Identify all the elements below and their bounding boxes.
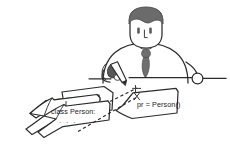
tie-shape xyxy=(142,57,149,77)
person-figure xyxy=(102,7,203,86)
left-eye-icon xyxy=(137,28,140,34)
tie-knot-shape xyxy=(142,49,151,58)
right-paper-code: pr = Person() xyxy=(137,100,180,109)
crosshair-tick-upper xyxy=(133,86,141,93)
left-paper-code-continuation: . . . xyxy=(59,116,77,125)
sketch-svg: class Person: . . . pr = Person() xyxy=(0,0,230,146)
right-eye-icon xyxy=(149,28,152,34)
left-paper-code: class Person: xyxy=(51,107,95,116)
desk-line xyxy=(89,78,226,79)
right-hand-icon xyxy=(192,73,203,84)
left-paper-stack: class Person: . . . xyxy=(26,87,113,138)
sketch-canvas: class Person: . . . pr = Person() xyxy=(0,0,230,146)
right-arm-shape xyxy=(186,62,197,74)
